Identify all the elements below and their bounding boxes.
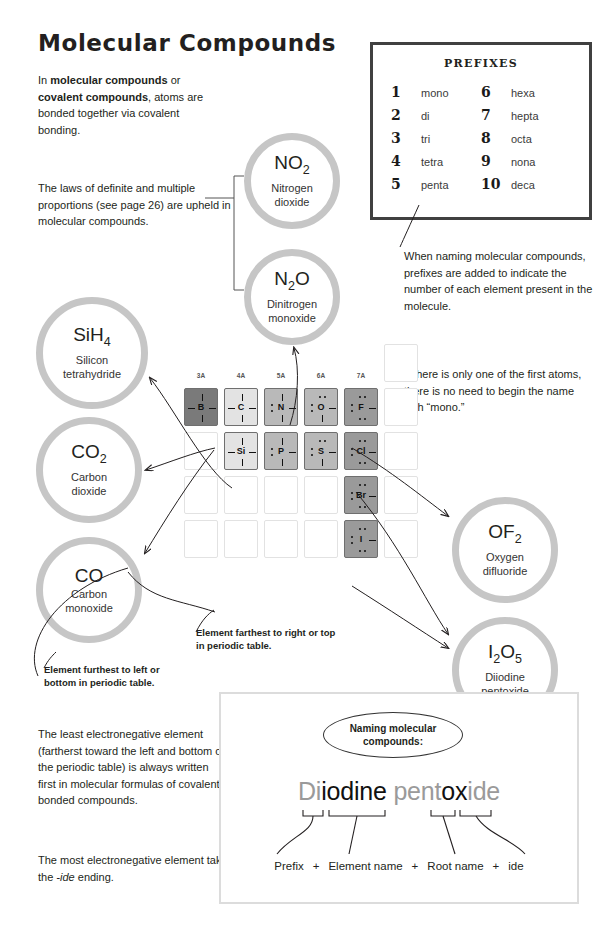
periodic-cell-empty-r4-c8A: [384, 520, 418, 558]
naming-brackets: [219, 806, 579, 866]
periodic-cell-empty-r4-c5A: [264, 520, 298, 558]
prefix-row-left-1: 2di: [391, 107, 481, 130]
callout-element-right-top: Element farthest to right or top in peri…: [196, 626, 346, 652]
prefix-row-right-0: 6hexa: [481, 84, 571, 107]
prefix-row-left-3: 4tetra: [391, 153, 481, 176]
paragraph-mono-note: If there is only one of the first atoms,…: [404, 366, 596, 416]
periodic-cell-empty-r3-c4A: [224, 476, 258, 514]
periodic-cell-O: O: [304, 388, 338, 426]
periodic-cell-empty-r3-c5A: [264, 476, 298, 514]
prefix-word: deca: [511, 179, 535, 191]
naming-example-word: Diiodine pentoxide: [219, 777, 579, 806]
prefix-row-right-4: 10deca: [481, 176, 571, 199]
bubble-n2o-name-line1: Dinitrogen: [267, 297, 317, 312]
bubble-co-name-line1: Carbon: [71, 587, 107, 602]
naming-word-part-3: ox: [441, 777, 467, 805]
prefixes-column-left: 1mono2di3tri4tetra5penta: [391, 84, 481, 199]
bubble-n2o-formula: N2O: [274, 268, 310, 297]
lewis-dot-diagram-O: [305, 389, 337, 425]
naming-oval-line2: compounds:: [363, 736, 423, 747]
prefix-word: penta: [421, 179, 449, 191]
periodic-cell-empty-r3-c3A: [184, 476, 218, 514]
most-post: ending.: [75, 871, 114, 883]
intro-mid: or: [168, 74, 181, 86]
periodic-cell-empty-r4-c4A: [224, 520, 258, 558]
periodic-column-header-5A: 5A: [264, 372, 298, 379]
prefix-number: 10: [481, 176, 511, 192]
periodic-column-header-6A: 6A: [304, 372, 338, 379]
lewis-dot-diagram-P: [265, 433, 297, 469]
intro-bold-2: covalent compounds: [38, 91, 148, 103]
paragraph-intro: In molecular compounds or covalent compo…: [38, 72, 210, 138]
periodic-cell-8A-top: [384, 344, 418, 382]
periodic-cell-Br: Br: [344, 476, 378, 514]
bubble-of2-formula: OF2: [488, 521, 521, 550]
bubble-of2-name-line2: difluoride: [483, 564, 528, 579]
prefix-number: 8: [481, 130, 511, 146]
bubble-no2-formula: NO2: [274, 152, 309, 181]
bubble-co2-name-line1: Carbon: [71, 470, 107, 485]
lewis-dot-diagram-B: [185, 389, 217, 425]
bubble-co2: CO2 Carbon dioxide: [36, 417, 142, 523]
callout-element-left-bottom: Element furthest to left or bottom in pe…: [44, 663, 194, 689]
periodic-cell-empty-r2-c8A: [384, 432, 418, 470]
most-ide-emphasis: -ide: [56, 871, 74, 883]
bubble-i2o5-formula: I2O5: [488, 641, 522, 670]
periodic-column-header-4A: 4A: [224, 372, 258, 379]
periodic-cell-B: B: [184, 388, 218, 426]
prefix-row-left-4: 5penta: [391, 176, 481, 199]
prefixes-column-right: 6hexa7hepta8octa9nona10deca: [481, 84, 571, 199]
naming-word-part-4: ide: [467, 777, 500, 805]
lewis-dot-diagram-C: [225, 389, 257, 425]
prefix-number: 4: [391, 153, 421, 169]
lewis-dot-diagram-S: [305, 433, 337, 469]
prefix-row-right-2: 8octa: [481, 130, 571, 153]
prefix-row-left-2: 3tri: [391, 130, 481, 153]
bubble-sih4-name-line1: Silicon: [76, 353, 108, 368]
prefix-row-left-0: 1mono: [391, 84, 481, 107]
bubble-no2-name-line1: Nitrogen: [271, 181, 313, 196]
page-title: Molecular Compounds: [38, 30, 336, 56]
bubble-co: CO Carbon monoxide: [36, 537, 142, 643]
infographic-page: Molecular Compounds In molecular compoun…: [0, 0, 607, 932]
prefix-number: 6: [481, 84, 511, 100]
bubble-i2o5-name-line1: Diiodine: [485, 670, 525, 685]
bubble-of2: OF2 Oxygen difluoride: [452, 497, 558, 603]
periodic-cell-empty-r1-c8A: [384, 388, 418, 426]
periodic-cell-empty-r3-c8A: [384, 476, 418, 514]
periodic-cell-empty-r2-c3A: [184, 432, 218, 470]
lewis-dot-diagram-Br: [345, 477, 377, 513]
lewis-dot-diagram-N: [265, 389, 297, 425]
prefix-word: nona: [511, 156, 535, 168]
periodic-cell-C: C: [224, 388, 258, 426]
bubble-sih4: SiH4 Silicon tetrahydride: [36, 297, 148, 409]
prefix-word: di: [421, 110, 430, 122]
naming-oval-label: Naming molecular compounds:: [323, 712, 463, 758]
paragraph-least-electronegative: The least electronegative element (farth…: [38, 726, 228, 809]
prefix-row-right-3: 9nona: [481, 153, 571, 176]
bubble-n2o: N2O Dinitrogen monoxide: [244, 249, 340, 345]
lewis-dot-diagram-I: [345, 521, 377, 557]
prefix-number: 3: [391, 130, 421, 146]
bubble-co2-formula: CO2: [71, 441, 106, 470]
prefix-number: 9: [481, 153, 511, 169]
lewis-dot-diagram-Cl: [345, 433, 377, 469]
periodic-cell-S: S: [304, 432, 338, 470]
prefix-number: 5: [391, 176, 421, 192]
naming-oval-line1: Naming molecular: [350, 723, 437, 734]
periodic-cell-empty-r4-c3A: [184, 520, 218, 558]
paragraph-prefix-note: When naming molecular compounds, prefixe…: [404, 248, 596, 314]
prefix-word: mono: [421, 87, 449, 99]
bubble-sih4-name-line2: tetrahydride: [63, 367, 121, 382]
periodic-cell-Si: Si: [224, 432, 258, 470]
periodic-cell-empty-r4-c6A: [304, 520, 338, 558]
bubble-of2-name-line1: Oxygen: [486, 550, 524, 565]
naming-word-part-1: iodine: [321, 777, 387, 805]
prefixes-heading: PREFIXES: [373, 57, 589, 70]
prefix-word: tetra: [421, 156, 443, 168]
bubble-n2o-name-line2: monoxide: [268, 311, 316, 326]
periodic-cell-I: I: [344, 520, 378, 558]
periodic-cell-F: F: [344, 388, 378, 426]
prefix-number: 7: [481, 107, 511, 123]
prefix-number: 2: [391, 107, 421, 123]
